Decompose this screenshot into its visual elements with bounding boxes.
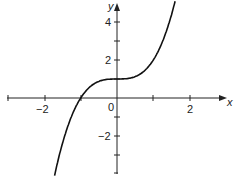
y-axis-label: y: [107, 0, 115, 12]
y-tick-label-4: 4: [105, 16, 111, 28]
curve-line: [55, 1, 176, 176]
plot-area: −2 0 2 4 2 −2 x y: [0, 0, 237, 177]
x-tick-label-2: 2: [187, 103, 193, 115]
origin-label: 0: [108, 101, 114, 113]
y-axis-arrow-icon: [114, 3, 120, 11]
chart: −2 0 2 4 2 −2 x y: [0, 0, 237, 177]
x-axis-arrow-icon: [219, 95, 227, 101]
y-tick-label-neg2: −2: [98, 130, 111, 142]
y-tick-label-2: 2: [105, 54, 111, 66]
x-axis-label: x: [226, 96, 233, 108]
x-tick-label-neg2: −2: [36, 103, 49, 115]
